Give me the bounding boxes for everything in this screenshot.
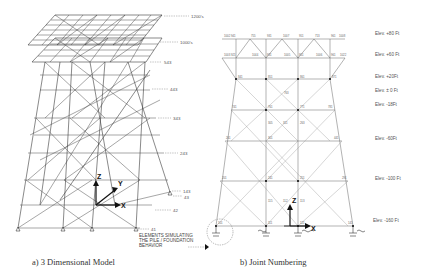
axis-x-label: X [121, 202, 126, 209]
axis-y-label: Y [118, 180, 123, 187]
joint-labels: 1002 941 755 931 1007 951 713 961 1008 1… [218, 34, 353, 225]
svg-text:311: 311 [283, 121, 288, 125]
elevation-label: Elev. ± 0 Ft [375, 88, 399, 93]
elevation-label: Elev. -160 Ft [373, 218, 399, 223]
svg-text:1006: 1006 [316, 53, 323, 57]
level-label-143: 143 [183, 189, 191, 194]
svg-text:241: 241 [268, 176, 273, 180]
svg-text:1002: 1002 [224, 34, 231, 38]
svg-text:251: 251 [300, 176, 305, 180]
svg-text:961: 961 [331, 53, 336, 57]
svg-text:931: 931 [267, 53, 272, 57]
callout-line-3: BEHAVIOR [139, 243, 163, 248]
level-label-343: 343 [173, 116, 181, 121]
svg-text:713: 713 [315, 34, 320, 38]
elevation-label: Elev. -18Ft [375, 102, 398, 107]
svg-text:761: 761 [268, 105, 273, 109]
svg-text:851: 851 [268, 75, 273, 79]
svg-text:112: 112 [283, 199, 288, 203]
pile-spring-supports [207, 219, 365, 245]
svg-text:961: 961 [331, 34, 336, 38]
svg-text:763: 763 [284, 91, 289, 95]
svg-text:931: 931 [267, 34, 272, 38]
svg-text:781: 781 [328, 105, 333, 109]
level-label-41: 41 [151, 227, 156, 232]
svg-text:1007: 1007 [283, 34, 290, 38]
axis-x-label-2d: X [311, 225, 316, 232]
svg-text:101: 101 [218, 221, 223, 225]
level-leaders [138, 16, 209, 250]
svg-text:263: 263 [300, 121, 305, 125]
panel-a-3d-model: Z Y X 1200's 1000's 543 443 343 243 143 … [16, 14, 209, 267]
level-label-1200: 1200's [191, 14, 205, 19]
deck-1200 [28, 15, 162, 45]
svg-text:871: 871 [332, 75, 337, 79]
level-label-1000: 1000's [180, 40, 194, 45]
level-label-443: 443 [170, 87, 178, 92]
svg-text:861: 861 [300, 75, 305, 79]
svg-text:291: 291 [342, 176, 347, 180]
svg-text:921: 921 [231, 53, 236, 57]
svg-text:951: 951 [299, 53, 304, 57]
level-label-543: 543 [164, 60, 172, 65]
elevation-label: Elev. +20Ft [375, 74, 399, 79]
svg-text:301: 301 [268, 136, 273, 140]
jacket-legs [18, 62, 170, 228]
svg-text:755: 755 [251, 34, 256, 38]
svg-text:305: 305 [268, 121, 273, 125]
svg-text:1003: 1003 [224, 53, 231, 57]
svg-text:941: 941 [231, 34, 236, 38]
svg-text:141: 141 [348, 221, 353, 225]
svg-text:111: 111 [268, 221, 273, 225]
svg-text:741: 741 [232, 105, 237, 109]
svg-text:201: 201 [222, 176, 227, 180]
svg-text:115: 115 [268, 199, 273, 203]
elevation-label: Elev. -60Ft [375, 136, 398, 141]
level-label-42: 42 [173, 208, 178, 213]
svg-text:121: 121 [300, 221, 305, 225]
level-label-243: 243 [180, 151, 188, 156]
svg-text:1005: 1005 [284, 53, 291, 57]
svg-text:441: 441 [334, 136, 339, 140]
jacket-horizontals [18, 75, 168, 228]
svg-text:841: 841 [238, 75, 243, 79]
panel-b-joint-numbering: 1002 941 755 931 1007 951 713 961 1008 1… [207, 31, 401, 267]
diagram-canvas: Z Y X 1200's 1000's 543 443 343 243 143 … [0, 0, 421, 279]
elevation-label: Elev. +60 Ft [375, 52, 400, 57]
svg-text:951: 951 [299, 34, 304, 38]
svg-text:1008: 1008 [339, 34, 346, 38]
svg-text:771: 771 [300, 105, 305, 109]
svg-text:261: 261 [226, 136, 231, 140]
svg-text:113: 113 [300, 199, 305, 203]
level-label-43: 43 [184, 195, 189, 200]
caption-panel-b: b) Joint Numbering [240, 257, 307, 267]
axis-z-label-2d: Z [292, 197, 297, 204]
axis-triad-3d: Z Y X [93, 173, 126, 209]
svg-text:1044: 1044 [252, 53, 259, 57]
caption-panel-a: a) 3 Dimensional Model [32, 257, 115, 267]
elevation-label: Elev. -100 Ft [375, 176, 401, 181]
axis-z-label: Z [97, 173, 102, 180]
elevation-label: Elev. +80 Ft [375, 31, 400, 36]
svg-text:1022: 1022 [340, 53, 347, 57]
deck-1000 [32, 38, 162, 62]
